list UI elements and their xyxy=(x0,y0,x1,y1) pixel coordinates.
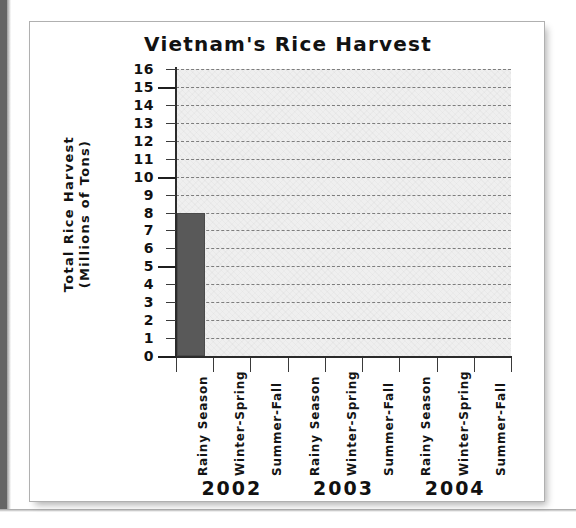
page-bottom-edge xyxy=(0,509,576,512)
gridline xyxy=(176,248,511,249)
y-tick-minor xyxy=(166,284,176,285)
y-tick-label-text: 9 xyxy=(126,188,154,202)
gridline xyxy=(176,141,511,142)
y-tick-label: 9 xyxy=(126,188,154,202)
y-tick-minor xyxy=(166,302,176,303)
gridline xyxy=(176,177,511,178)
gridline xyxy=(176,213,511,214)
gridline xyxy=(176,195,511,196)
y-tick-minor xyxy=(166,213,176,214)
y-tick-major xyxy=(158,266,176,268)
y-tick-label: 12 xyxy=(126,134,154,148)
y-tick-minor xyxy=(166,320,176,321)
y-axis-title: Total Rice Harvest (Millions of Tons) xyxy=(60,104,94,324)
gridline xyxy=(176,159,511,160)
gridline xyxy=(176,338,511,339)
y-tick-label: 3 xyxy=(126,295,154,309)
gridline xyxy=(176,69,511,70)
y-axis-title-line-2: (Millions of Tons) xyxy=(77,140,93,289)
gridline xyxy=(176,123,511,124)
gridline xyxy=(176,105,511,106)
y-tick-label: 7 xyxy=(126,223,154,237)
y-tick-minor xyxy=(166,248,176,249)
y-tick-label: 1 xyxy=(126,331,154,345)
x-tick xyxy=(176,358,177,372)
x-axis-season-label-text: Rainy Season xyxy=(308,376,322,476)
gridline xyxy=(176,266,511,267)
y-tick-label-text: 1 xyxy=(126,331,154,345)
y-tick-major xyxy=(158,356,176,358)
x-axis-year-label: 2004 xyxy=(399,477,511,499)
y-tick-label: 10 xyxy=(126,170,154,184)
y-tick-label-text: 6 xyxy=(126,241,154,255)
gridline xyxy=(176,230,511,231)
y-tick-minor xyxy=(166,69,176,70)
y-tick-minor xyxy=(166,105,176,106)
y-tick-label-text: 2 xyxy=(126,313,154,327)
y-tick-label: 2 xyxy=(126,313,154,327)
x-tick xyxy=(325,358,326,372)
y-tick-label-text: 5 xyxy=(126,259,154,273)
x-axis-season-label-text: Summer-Fall xyxy=(494,382,508,476)
figure-page: Vietnam's Rice Harvest Total Rice Harves… xyxy=(0,0,576,528)
x-axis-season-label-text: Rainy Season xyxy=(419,376,433,476)
y-tick-label-text: 10 xyxy=(126,170,154,184)
x-tick xyxy=(399,358,400,372)
x-axis-season-label: Summer-Fall xyxy=(481,374,495,478)
x-tick xyxy=(213,358,214,372)
y-tick-label-text: 8 xyxy=(126,206,154,220)
x-axis-season-label-text: Winter-Spring xyxy=(345,371,359,476)
y-tick-label-text: 12 xyxy=(126,134,154,148)
y-tick-label: 0 xyxy=(126,349,154,363)
x-axis-season-label-text: Winter-Spring xyxy=(457,371,471,476)
y-tick-label: 15 xyxy=(126,80,154,94)
x-tick xyxy=(437,358,438,372)
y-tick-label: 8 xyxy=(126,206,154,220)
x-axis-season-label-text: Winter-Spring xyxy=(233,371,247,476)
y-axis-title-line-1: Total Rice Harvest xyxy=(61,136,77,292)
x-tick xyxy=(474,358,475,372)
y-tick-label-text: 4 xyxy=(126,277,154,291)
y-tick-label: 4 xyxy=(126,277,154,291)
y-tick-label-text: 14 xyxy=(126,98,154,112)
gridline xyxy=(176,87,511,88)
y-tick-minor xyxy=(166,159,176,160)
y-tick-minor xyxy=(166,123,176,124)
x-axis-season-label-text: Rainy Season xyxy=(196,376,210,476)
y-tick-label: 5 xyxy=(126,259,154,273)
x-axis-season-label-text: Summer-Fall xyxy=(382,382,396,476)
y-tick-major xyxy=(158,87,176,89)
bar xyxy=(177,213,205,357)
y-tick-minor xyxy=(166,141,176,142)
y-tick-label: 14 xyxy=(126,98,154,112)
y-tick-label-text: 3 xyxy=(126,295,154,309)
x-tick xyxy=(250,358,251,372)
y-tick-minor xyxy=(166,230,176,231)
chart-title: Vietnam's Rice Harvest xyxy=(30,32,546,56)
gridline xyxy=(176,302,511,303)
y-tick-label: 13 xyxy=(126,116,154,130)
y-tick-label-text: 11 xyxy=(126,152,154,166)
chart-card: Vietnam's Rice Harvest Total Rice Harves… xyxy=(29,21,545,502)
y-tick-label-text: 7 xyxy=(126,223,154,237)
x-axis-line xyxy=(175,356,512,358)
x-tick xyxy=(288,358,289,372)
x-axis-season-label: Rainy Season xyxy=(183,374,197,478)
y-tick-label: 11 xyxy=(126,152,154,166)
y-tick-label-text: 16 xyxy=(126,62,154,76)
y-tick-major xyxy=(158,177,176,179)
x-axis-season-label: Winter-Spring xyxy=(444,374,458,478)
y-tick-label-text: 0 xyxy=(126,349,154,363)
y-tick-label-text: 15 xyxy=(126,80,154,94)
y-tick-minor xyxy=(166,338,176,339)
y-tick-minor xyxy=(166,195,176,196)
x-axis-season-label: Rainy Season xyxy=(406,374,420,478)
y-tick-label-text: 13 xyxy=(126,116,154,130)
gridline xyxy=(176,284,511,285)
x-axis-season-label: Rainy Season xyxy=(295,374,309,478)
page-gutter-shadow xyxy=(7,0,11,509)
x-tick xyxy=(362,358,363,372)
x-axis-year-label: 2002 xyxy=(176,477,288,499)
y-tick-label: 16 xyxy=(126,62,154,76)
x-axis-season-label: Winter-Spring xyxy=(220,374,234,478)
